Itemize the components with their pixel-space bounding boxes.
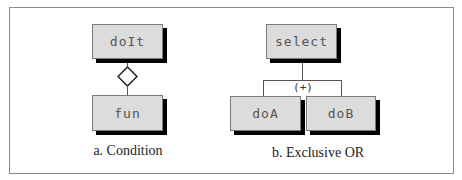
connector-line xyxy=(127,86,128,95)
node-select: select xyxy=(266,24,337,59)
diamond-condition-icon xyxy=(117,66,138,87)
connector-line xyxy=(341,80,342,96)
xor-label: (+) xyxy=(293,81,313,94)
caption-condition: a. Condition xyxy=(93,143,162,159)
connector-line xyxy=(302,63,303,80)
node-doit: doIt xyxy=(92,24,163,59)
connector-line xyxy=(263,80,264,96)
node-fun: fun xyxy=(92,95,163,131)
caption-exclusive-or: b. Exclusive OR xyxy=(272,145,364,161)
node-doa: doA xyxy=(230,96,301,131)
node-dob: doB xyxy=(306,96,376,131)
figure-frame xyxy=(9,7,454,174)
